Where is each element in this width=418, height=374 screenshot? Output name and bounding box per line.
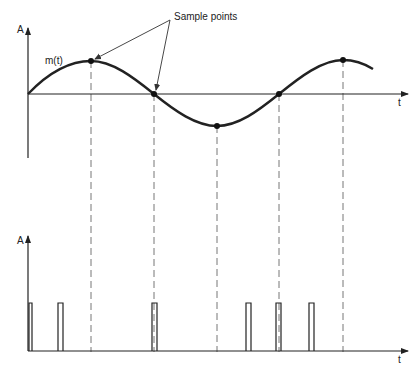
pulse-train	[29, 303, 314, 351]
bottom-y-axis-label: A	[17, 236, 24, 246]
top-x-axis-label: t	[398, 98, 401, 108]
bottom-x-axis-label: t	[398, 355, 401, 365]
sample-points	[88, 57, 346, 129]
sample-points-annotation: Sample points	[174, 12, 237, 22]
signal-curve	[28, 60, 373, 126]
signal-label: m(t)	[45, 56, 63, 66]
sample-guide-lines	[91, 60, 343, 352]
top-y-axis-label: A	[17, 25, 24, 35]
annotation-arrows	[95, 20, 170, 90]
top-axes	[28, 28, 408, 158]
bottom-axes	[28, 236, 408, 351]
